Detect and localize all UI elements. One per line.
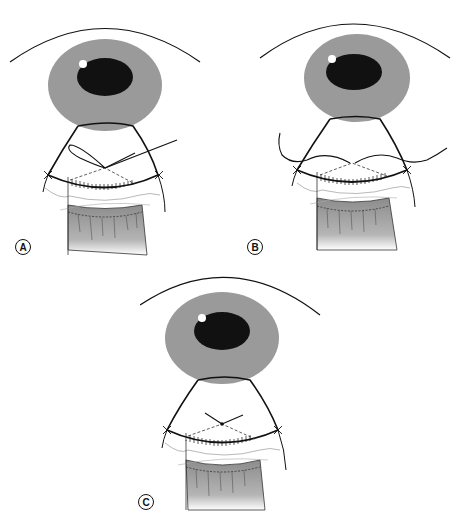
suture-tail-left xyxy=(205,413,222,424)
corneal-highlight xyxy=(79,60,87,68)
rectus-muscle xyxy=(317,198,397,250)
rectus-muscle xyxy=(186,460,265,510)
panel-a: A xyxy=(0,0,232,270)
suture-end xyxy=(105,140,177,168)
panel-label-c: C xyxy=(138,494,154,510)
flap-edge xyxy=(48,175,158,188)
suture-knot xyxy=(220,422,224,426)
panel-b: B xyxy=(232,0,463,270)
eye-suture-illustration-c xyxy=(140,260,340,525)
corneal-highlight xyxy=(328,55,336,63)
flap-edge xyxy=(167,430,278,443)
suture-loop xyxy=(69,145,105,168)
eye-suture-illustration-b xyxy=(232,0,463,270)
suture-left-end xyxy=(279,133,350,163)
panel-label-a: A xyxy=(15,239,31,255)
corneal-highlight xyxy=(198,314,206,322)
panel-c: C xyxy=(140,260,340,525)
suture-tail-right xyxy=(222,415,243,424)
panel-label-b: B xyxy=(247,239,263,255)
eye-suture-illustration-a xyxy=(0,0,232,270)
flap-edge xyxy=(297,170,407,182)
